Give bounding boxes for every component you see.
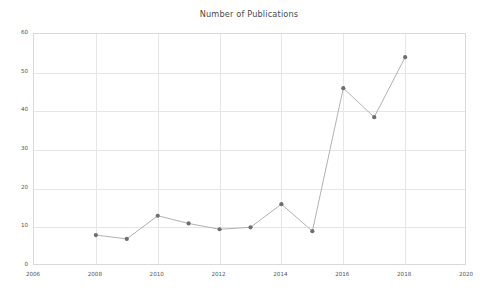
x-tick-label: 2006 <box>13 272 53 278</box>
x-tick-label: 2008 <box>75 272 115 278</box>
x-tick-label: 2014 <box>260 272 300 278</box>
x-tick-label: 2018 <box>384 272 424 278</box>
x-tick-label: 2010 <box>137 272 177 278</box>
x-tick-label: 2012 <box>199 272 239 278</box>
chart-figure: Number of Publications 0102030405060 200… <box>0 0 498 297</box>
x-axis-ticks: 20062008201020122014201620182020 <box>0 0 498 297</box>
x-tick-label: 2016 <box>322 272 362 278</box>
x-tick-label: 2020 <box>446 272 486 278</box>
